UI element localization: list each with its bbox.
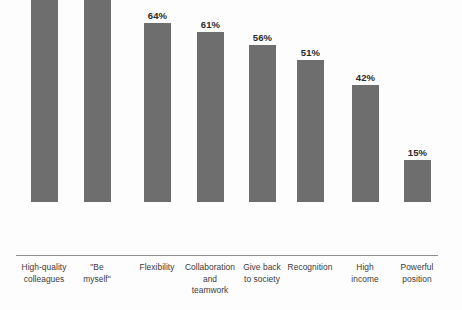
bar-rect[interactable]: [249, 45, 276, 202]
bar-rect[interactable]: [84, 0, 111, 202]
bar-value-label: 15%: [408, 148, 427, 158]
x-axis-line: [16, 255, 438, 256]
category-label-high-quality-colleagues: High-quality colleagues: [14, 262, 74, 285]
bar-rect[interactable]: [297, 60, 324, 202]
category-label-high-income: High income: [335, 262, 395, 285]
bar-group-recognition[interactable]: 51%: [297, 48, 324, 202]
category-label-line: and: [180, 274, 240, 286]
plot-area: 82% 79% 64% 61% 56% 51% 42% 15%: [0, 0, 462, 256]
category-label-line: Recognition: [280, 262, 340, 274]
category-label-line: "Be: [67, 262, 127, 274]
bar-group-high-quality-colleagues[interactable]: 82%: [31, 0, 58, 202]
bar-chart: 82% 79% 64% 61% 56% 51% 42% 15%: [0, 0, 462, 310]
category-label-line: teamwork: [180, 285, 240, 297]
bar-group-collaboration-and-teamwork[interactable]: 61%: [197, 20, 224, 202]
category-label-powerful-position: Powerful position: [387, 262, 447, 285]
bar-group-be-myself[interactable]: 79%: [84, 0, 111, 202]
bar-group-powerful-position[interactable]: 15%: [404, 148, 431, 202]
bar-rect[interactable]: [352, 85, 379, 202]
category-label-line: High-quality: [14, 262, 74, 274]
category-label-line: Powerful: [387, 262, 447, 274]
bar-group-give-back-to-society[interactable]: 56%: [249, 33, 276, 202]
bar-value-label: 51%: [301, 48, 320, 58]
bar-rect[interactable]: [404, 160, 431, 202]
bar-value-label: 42%: [356, 73, 375, 83]
bar-value-label: 56%: [253, 33, 272, 43]
bar-rect[interactable]: [197, 32, 224, 202]
category-label-be-myself: "Be myself": [67, 262, 127, 285]
category-label-line: to society: [232, 274, 292, 286]
bar-group-high-income[interactable]: 42%: [352, 73, 379, 202]
category-label-recognition: Recognition: [280, 262, 340, 274]
bar-group-flexibility[interactable]: 64%: [144, 11, 171, 202]
bar-value-label: 61%: [201, 20, 220, 30]
category-label-collaboration-and-teamwork: Collaboration and teamwork: [180, 262, 240, 297]
category-label-line: Flexibility: [127, 262, 187, 274]
bar-rect[interactable]: [144, 23, 171, 202]
bar-value-label: 64%: [148, 11, 167, 21]
category-label-line: Collaboration: [180, 262, 240, 274]
category-label-line: myself": [67, 274, 127, 286]
category-label-line: colleagues: [14, 274, 74, 286]
category-label-line: High: [335, 262, 395, 274]
bar-rect[interactable]: [31, 0, 58, 202]
category-label-line: income: [335, 274, 395, 286]
category-label-flexibility: Flexibility: [127, 262, 187, 274]
category-label-line: position: [387, 274, 447, 286]
